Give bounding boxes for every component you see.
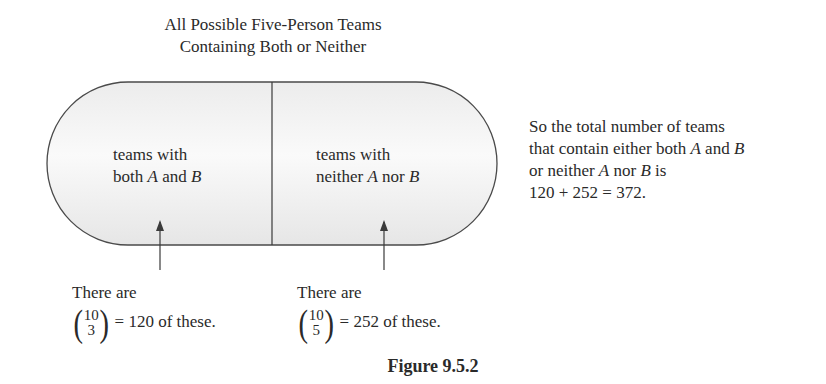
region-neither-line2: neither A nor B <box>316 166 419 188</box>
summary-line-2: that contain either both A and B <box>529 138 744 160</box>
summary-note: So the total number of teams that contai… <box>529 116 744 204</box>
count-both-result: = 120 of these. <box>115 312 216 331</box>
region-both-line2: both A and B <box>113 166 201 188</box>
summary-line-1: So the total number of teams <box>529 116 744 138</box>
count-neither-formula: ( 105 ) = 252 of these. <box>297 304 441 342</box>
binomial-10-3: ( 103 ) <box>72 304 110 342</box>
region-both-line1: teams with <box>113 144 201 166</box>
region-label-neither: teams with neither A nor B <box>316 144 419 188</box>
summary-line-4: 120 + 252 = 372. <box>529 182 744 204</box>
count-both-formula: ( 103 ) = 120 of these. <box>72 304 216 342</box>
summary-line-3: or neither A nor B is <box>529 160 744 182</box>
count-neither: There are ( 105 ) = 252 of these. <box>297 282 441 342</box>
region-label-both: teams with both A and B <box>113 144 201 188</box>
count-neither-intro: There are <box>297 282 441 304</box>
binomial-10-5: ( 105 ) <box>297 304 335 342</box>
figure-caption: Figure 9.5.2 <box>0 356 826 377</box>
count-both-intro: There are <box>72 282 216 304</box>
region-neither-line1: teams with <box>316 144 419 166</box>
count-neither-result: = 252 of these. <box>340 312 441 331</box>
count-both: There are ( 103 ) = 120 of these. <box>72 282 216 342</box>
